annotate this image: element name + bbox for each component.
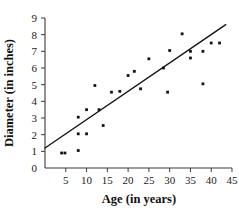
data-point-marker: [202, 50, 205, 53]
y-axis: 0123456789: [32, 12, 46, 174]
data-point-marker: [189, 50, 192, 53]
data-point-marker: [102, 124, 105, 127]
data-point-marker: [210, 42, 213, 45]
data-point-marker: [218, 42, 221, 45]
y-tick-label: 3: [32, 112, 38, 124]
chart-canvas: 0123456789 51015202530354045 Age (in yea…: [0, 0, 239, 215]
y-axis-ticks: 0123456789: [32, 12, 46, 174]
y-axis-title: Diameter (in inches): [2, 39, 16, 147]
trend-line: [45, 25, 226, 148]
x-tick-label: 5: [63, 174, 69, 186]
data-point-marker: [64, 152, 67, 155]
x-axis-title: Age (in years): [102, 192, 176, 206]
y-tick-label: 9: [32, 12, 38, 24]
x-tick-label: 35: [185, 174, 197, 186]
scatter-plot-figure: 0123456789 51015202530354045 Age (in yea…: [0, 0, 239, 215]
x-tick-label: 20: [123, 174, 135, 186]
y-tick-label: 8: [32, 29, 38, 41]
x-tick-label: 40: [206, 174, 218, 186]
data-point-marker: [166, 91, 169, 94]
data-point-marker: [127, 74, 130, 77]
data-point-marker: [77, 116, 80, 119]
data-point-marker: [147, 57, 150, 60]
data-point-marker: [181, 32, 184, 35]
x-axis: 51015202530354045: [45, 168, 238, 186]
data-point-marker: [110, 91, 113, 94]
data-point-marker: [98, 108, 101, 111]
data-point-marker: [189, 57, 192, 60]
data-point-marker: [118, 90, 121, 93]
x-tick-label: 25: [143, 174, 155, 186]
x-axis-ticks: 51015202530354045: [63, 168, 238, 186]
y-tick-label: 1: [32, 145, 38, 157]
data-point-marker: [168, 49, 171, 52]
y-tick-label: 0: [32, 162, 38, 174]
x-tick-label: 15: [102, 174, 114, 186]
data-point-marker: [85, 132, 88, 135]
x-tick-label: 10: [81, 174, 93, 186]
data-point-marker: [139, 87, 142, 90]
data-point-marker: [133, 70, 136, 73]
y-tick-label: 6: [32, 62, 38, 74]
y-tick-label: 7: [32, 45, 38, 57]
y-tick-label: 2: [32, 129, 38, 141]
data-point-marker: [202, 82, 205, 85]
data-point-marker: [77, 132, 80, 135]
data-points: [60, 32, 221, 154]
x-tick-label: 45: [227, 174, 239, 186]
data-point-marker: [162, 67, 165, 70]
y-tick-label: 4: [32, 95, 38, 107]
data-point-marker: [60, 152, 63, 155]
data-point-marker: [77, 149, 80, 152]
x-tick-label: 30: [164, 174, 176, 186]
y-tick-label: 5: [32, 79, 38, 91]
trend-line-segment: [45, 25, 226, 148]
data-point-marker: [85, 108, 88, 111]
data-point-marker: [93, 84, 96, 87]
